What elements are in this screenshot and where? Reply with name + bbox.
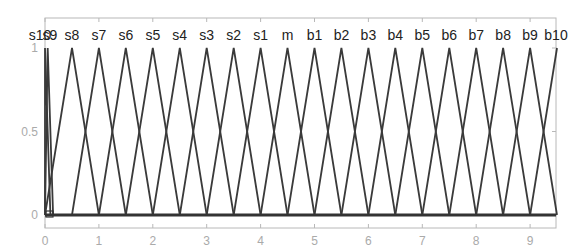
set-label-s3: s3 — [199, 27, 214, 43]
set-label-b7: b7 — [468, 27, 484, 43]
set-label-b1: b1 — [307, 27, 323, 43]
set-label-b2: b2 — [334, 27, 350, 43]
set-label-s9: s9 — [43, 27, 58, 43]
curve-s1 — [234, 48, 288, 215]
curve-b9 — [503, 48, 557, 215]
membership-curves — [45, 48, 557, 215]
x-tick-label: 4 — [257, 234, 264, 248]
x-tick-label: 2 — [149, 234, 156, 248]
x-tick-label: 1 — [96, 234, 103, 248]
curve-b2 — [315, 48, 369, 215]
curve-s5 — [126, 48, 180, 215]
x-tick-label: 3 — [203, 234, 210, 248]
set-label-b4: b4 — [388, 27, 404, 43]
set-label-b9: b9 — [522, 27, 538, 43]
y-tick-label: 0.5 — [21, 125, 38, 139]
curve-s2 — [207, 48, 261, 215]
set-label-s6: s6 — [118, 27, 133, 43]
curve-s4 — [153, 48, 207, 215]
set-label-b10: b10 — [544, 27, 568, 43]
curve-b3 — [341, 48, 395, 215]
curve-b7 — [449, 48, 503, 215]
curve-m — [261, 48, 315, 215]
set-label-s1: s1 — [253, 27, 268, 43]
curve-b5 — [395, 48, 449, 215]
x-tick-label: 8 — [473, 234, 480, 248]
set-label-b8: b8 — [495, 27, 511, 43]
curve-s7 — [72, 48, 126, 215]
set-label-s4: s4 — [172, 27, 187, 43]
curve-s3 — [180, 48, 234, 215]
set-label-s8: s8 — [65, 27, 80, 43]
set-label-b3: b3 — [361, 27, 377, 43]
curve-s6 — [99, 48, 153, 215]
set-label-b5: b5 — [415, 27, 431, 43]
y-tick-label: 0 — [31, 208, 38, 222]
set-label-b6: b6 — [441, 27, 457, 43]
y-tick-label: 1 — [31, 41, 38, 55]
set-label-m: m — [282, 27, 294, 43]
x-tick-label: 9 — [527, 234, 534, 248]
membership-function-chart: 0123456789 00.51 s10s9s8s7s6s5s4s3s2s1mb… — [0, 0, 585, 251]
curve-b6 — [422, 48, 476, 215]
x-tick-label: 0 — [42, 234, 49, 248]
set-label-s2: s2 — [226, 27, 241, 43]
x-tick-label: 5 — [311, 234, 318, 248]
curve-b8 — [476, 48, 530, 215]
curve-b1 — [288, 48, 342, 215]
curve-b4 — [368, 48, 422, 215]
set-label-s5: s5 — [145, 27, 160, 43]
set-label-s7: s7 — [92, 27, 107, 43]
set-labels: s10s9s8s7s6s5s4s3s2s1mb1b2b3b4b5b6b7b8b9… — [29, 27, 568, 43]
x-tick-label: 7 — [419, 234, 426, 248]
x-tick-label: 6 — [365, 234, 372, 248]
